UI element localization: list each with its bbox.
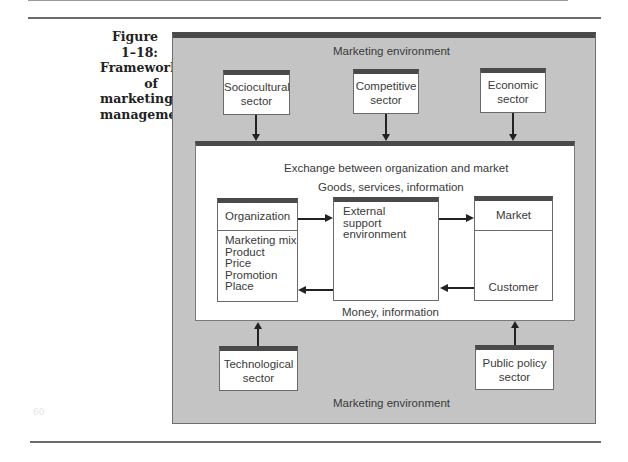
arrow-right-icon — [466, 214, 474, 222]
organization-header: Organization — [218, 203, 297, 231]
marketing-environment-top-label: Marketing environment — [333, 45, 450, 57]
market-to-external-line — [447, 287, 474, 289]
technological-sector-line2: sector — [220, 372, 297, 386]
arrow-right-icon — [325, 214, 333, 222]
public-policy-connector — [514, 327, 516, 345]
bottom-rule — [30, 441, 601, 443]
caption-line-3: marketing — [100, 91, 158, 107]
technological-sector-box: Technological sector — [219, 346, 298, 391]
technological-sector-line1: Technological — [220, 358, 297, 372]
competitive-sector-line1: Competitive — [354, 80, 418, 94]
market-header: Market — [475, 201, 552, 231]
external-line1: External — [343, 206, 438, 218]
mix-item: Marketing mix — [225, 235, 297, 247]
external-to-market-line — [439, 218, 467, 220]
figure-caption: Figure 1–18: Framework of marketing mana… — [100, 29, 158, 122]
competitive-sector-box: Competitive sector — [353, 69, 419, 114]
economic-connector — [512, 113, 514, 135]
goods-services-flow-label: Goods, services, information — [318, 181, 464, 193]
mix-item: Place — [225, 281, 297, 293]
top-rule — [28, 17, 601, 19]
market-box: Market Customer — [474, 196, 553, 301]
organization-box: Organization Marketing mix Product Price… — [217, 198, 298, 302]
public-policy-sector-line1: Public policy — [476, 357, 553, 371]
external-support-environment-box: External support environment — [333, 197, 439, 301]
public-policy-sector-box: Public policy sector — [475, 345, 554, 390]
customer-label: Customer — [475, 281, 552, 295]
mix-item: Price — [225, 258, 297, 270]
arrow-down-icon — [382, 134, 390, 141]
sociocultural-connector — [255, 115, 257, 135]
competitive-sector-line2: sector — [354, 94, 418, 108]
economic-sector-line2: sector — [481, 93, 545, 107]
economic-sector-box: Economic sector — [480, 68, 546, 113]
arrow-down-icon — [252, 134, 260, 141]
exchange-title: Exchange between organization and market — [284, 162, 508, 174]
caption-line-1: Figure 1–18: — [100, 29, 158, 60]
external-line3: environment — [343, 229, 438, 241]
page-number-ghost: 60 — [33, 407, 44, 417]
top-edge-rule — [28, 0, 568, 1]
public-policy-sector-line2: sector — [476, 371, 553, 385]
competitive-connector — [385, 114, 387, 135]
sociocultural-sector-box: Sociocultural sector — [223, 70, 290, 115]
caption-line-2: Framework of — [100, 60, 158, 91]
org-to-external-line — [298, 218, 326, 220]
caption-line-4: management — [100, 107, 158, 123]
arrow-down-icon — [509, 134, 517, 141]
sociocultural-sector-line2: sector — [224, 95, 289, 109]
sociocultural-sector-line1: Sociocultural — [224, 81, 289, 95]
money-information-flow-label: Money, information — [342, 306, 439, 318]
economic-sector-line1: Economic — [481, 79, 545, 93]
marketing-environment-bottom-label: Marketing environment — [333, 397, 450, 409]
external-to-org-line — [305, 289, 333, 291]
technological-connector — [257, 328, 259, 346]
